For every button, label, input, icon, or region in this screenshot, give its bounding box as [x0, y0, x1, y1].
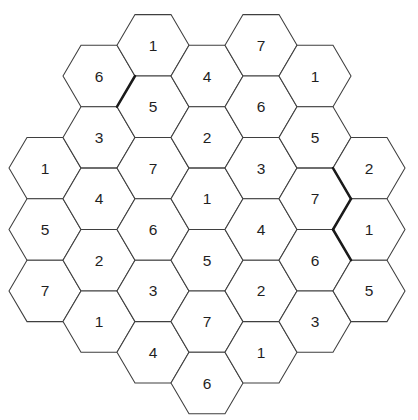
hex-cell-value: 4	[203, 68, 212, 85]
hex-cell-value: 2	[365, 160, 374, 177]
hex-cell-value: 6	[257, 98, 266, 115]
hex-cell-value: 2	[257, 282, 266, 299]
hex-cell-value: 4	[149, 344, 158, 361]
hex-cell-value: 3	[257, 160, 266, 177]
hex-cell-value: 5	[365, 282, 374, 299]
hex-cell-value: 1	[311, 68, 320, 85]
hex-cell-value: 1	[95, 313, 104, 330]
hex-cell-value: 1	[149, 37, 158, 54]
puzzle-board: 1576342115763442157676342115763215	[0, 0, 418, 420]
hex-cell-value: 6	[203, 375, 212, 392]
hex-cell-value: 7	[149, 160, 158, 177]
hex-cell-value: 1	[257, 344, 266, 361]
hex-cell-value: 5	[311, 129, 320, 146]
hex-cell-value: 5	[203, 252, 212, 269]
hex-cell-value: 3	[95, 129, 104, 146]
hex-cell-value: 5	[149, 98, 158, 115]
hex-cell-value: 4	[257, 221, 266, 238]
hex-cell-value: 2	[203, 129, 212, 146]
hex-cell-value: 6	[149, 221, 158, 238]
hex-cell-value: 4	[95, 190, 104, 207]
hex-cell-value: 7	[311, 190, 320, 207]
hex-cell-value: 7	[257, 37, 266, 54]
hex-cell-value: 6	[311, 252, 320, 269]
hex-cell-value: 6	[95, 68, 104, 85]
hex-cell-value: 2	[95, 252, 104, 269]
hex-cell-value: 1	[203, 190, 212, 207]
hex-cell-value: 1	[41, 160, 50, 177]
hex-grid-svg: 1576342115763442157676342115763215	[0, 0, 418, 420]
hex-cell-value: 7	[41, 282, 50, 299]
hex-cell-value: 7	[203, 313, 212, 330]
hex-cell-value: 5	[41, 221, 50, 238]
hex-cell-value: 3	[311, 313, 320, 330]
hex-cell-value: 3	[149, 282, 158, 299]
hex-cell-value: 1	[365, 221, 374, 238]
